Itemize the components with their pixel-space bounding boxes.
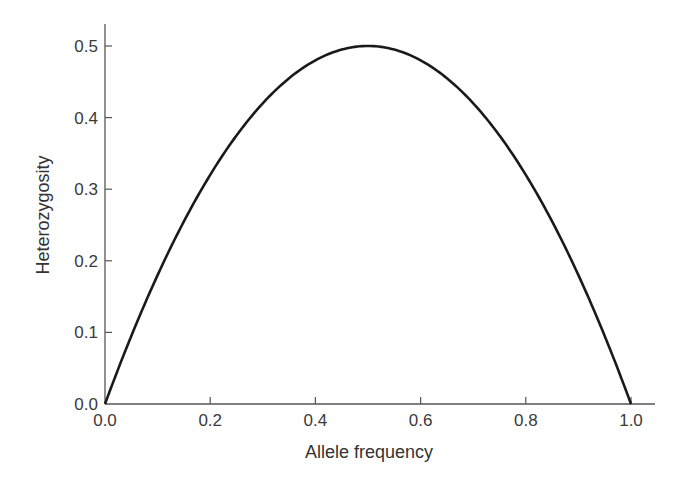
- heterozygosity-chart: 0.00.20.40.60.81.00.00.10.20.30.40.5 All…: [0, 0, 687, 487]
- y-tick-label: 0.4: [74, 109, 98, 128]
- x-tick-label: 0.4: [304, 411, 328, 430]
- x-tick-label: 0.2: [198, 411, 222, 430]
- x-tick-label: 1.0: [619, 411, 643, 430]
- x-tick-label: 0.6: [409, 411, 433, 430]
- y-tick-label: 0.5: [74, 37, 98, 56]
- y-tick-label: 0.2: [74, 252, 98, 271]
- y-tick-label: 0.0: [74, 395, 98, 414]
- axes: 0.00.20.40.60.81.00.00.10.20.30.40.5: [74, 24, 655, 430]
- y-tick-label: 0.3: [74, 180, 98, 199]
- y-tick-label: 0.1: [74, 323, 98, 342]
- heterozygosity-curve: [105, 46, 631, 404]
- x-axis-label: Allele frequency: [305, 442, 433, 462]
- x-tick-label: 0.8: [514, 411, 538, 430]
- y-axis-label: Heterozygosity: [33, 155, 53, 274]
